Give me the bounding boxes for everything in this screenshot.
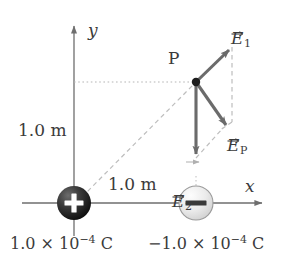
vertical-distance-label: 1.0 m bbox=[18, 122, 67, 139]
vector-ep-label: EP bbox=[227, 137, 292, 156]
positive-charge-unit: C bbox=[101, 234, 113, 253]
y-axis-label: y bbox=[88, 22, 98, 39]
vector-e1-label: E1 bbox=[231, 30, 292, 49]
electric-field-diagram: y x P 1.0 m 1.0 m E1 EP E2 1.0 × 10−4 C … bbox=[0, 0, 292, 267]
vector-arrow-accent-e1 bbox=[231, 30, 243, 36]
vector-e1-arrow bbox=[196, 50, 229, 82]
point-p-label: P bbox=[168, 50, 179, 67]
vector-e2-label: E2 bbox=[172, 193, 292, 212]
point-p-marker bbox=[192, 78, 200, 86]
negative-charge-mantissa: −1.0 × 10 bbox=[148, 234, 231, 253]
field-vectors bbox=[192, 50, 229, 154]
charge-positive-group bbox=[57, 186, 91, 220]
horizontal-distance-label: 1.0 m bbox=[108, 176, 157, 193]
positive-charge-value-label: 1.0 × 10−4 C bbox=[10, 234, 113, 252]
vector-arrow-accent-ep bbox=[227, 137, 239, 143]
vector-arrow-accent-e2 bbox=[172, 193, 184, 199]
positive-charge-exponent: −4 bbox=[79, 233, 95, 246]
dashed-parallelogram-side-bottom bbox=[196, 128, 223, 158]
negative-charge-value-label: −1.0 × 10−4 C bbox=[148, 234, 264, 252]
vector-ep-subscript: P bbox=[240, 144, 247, 157]
vector-ep-arrow bbox=[196, 82, 226, 125]
negative-charge-exponent: −4 bbox=[231, 233, 247, 246]
vector-e2-subscript: 2 bbox=[185, 200, 192, 213]
positive-charge-mantissa: 1.0 × 10 bbox=[10, 234, 79, 253]
plus-sign-vertical bbox=[71, 194, 76, 213]
negative-charge-unit: C bbox=[252, 234, 264, 253]
vector-e1-subscript: 1 bbox=[244, 37, 251, 50]
